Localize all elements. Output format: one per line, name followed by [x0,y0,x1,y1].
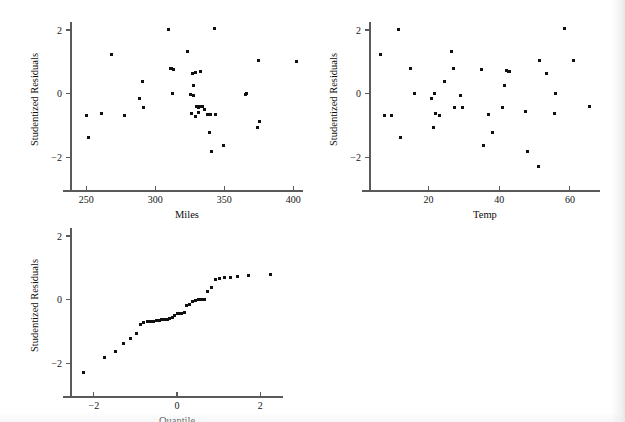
x-tick-label: 2 [258,400,263,411]
data-point [480,68,483,71]
data-point [399,136,402,139]
data-point [192,84,195,87]
data-point [194,71,197,74]
data-point [430,97,433,100]
data-point [201,105,204,108]
data-point [190,112,193,115]
data-point [443,80,446,83]
data-point [379,53,382,56]
data-point [139,323,142,326]
data-point [487,113,490,116]
data-point [257,59,260,62]
data-point-group [82,273,272,374]
x-tick-label: 0 [175,400,180,411]
data-point [545,72,548,75]
data-point [122,342,125,345]
data-point [142,321,145,324]
x-axis-title: Temp [473,209,497,220]
data-point [503,84,506,87]
data-point [588,105,591,108]
data-point [258,120,261,123]
x-tick-label: 40 [494,194,504,205]
scatter-plot-residuals-vs-temp: −202204060TempStudentized Residuals [320,0,625,210]
data-point [142,106,145,109]
data-point [210,150,213,153]
data-point [191,300,194,303]
data-point [191,72,194,75]
y-tick-label: 0 [356,88,361,99]
data-point-group [379,27,591,168]
data-point [383,114,386,117]
data-point [538,59,541,62]
data-point [152,320,155,323]
scatter-plot-normal-qq: −202−202QuantileStudentized Residuals [0,210,320,422]
x-axis-title: Quantile [159,415,195,422]
data-point [198,105,201,108]
data-point [438,114,441,117]
data-point [572,59,575,62]
data-point [269,273,272,276]
data-point [210,286,213,289]
data-point [491,131,494,134]
x-tick-label: 350 [217,194,232,205]
data-point [397,28,400,31]
figure-panel-grid: −202250300350400MilesStudentized Residua… [0,0,625,422]
data-point [459,94,462,97]
data-point [192,94,195,97]
data-point [138,97,141,100]
x-tick-label: 300 [148,194,163,205]
y-tick-label: −2 [350,152,361,163]
y-tick-label: −2 [51,152,62,163]
y-tick-label: 0 [57,294,62,305]
data-point [409,67,412,70]
data-point [199,70,202,73]
data-point [390,114,393,117]
data-point [123,114,126,117]
data-point [508,70,511,73]
data-point-group [85,27,297,153]
y-tick-label: 2 [57,231,62,242]
x-tick-label: 60 [565,194,575,205]
x-tick-label: 250 [79,194,94,205]
data-point [223,276,226,279]
data-point [206,290,209,293]
y-tick-label: 0 [57,88,62,99]
data-point [524,110,527,113]
data-point [197,298,200,301]
data-point [160,318,163,321]
data-point [236,275,239,278]
data-point [434,112,437,115]
data-point [537,165,540,168]
residuals-vs-temp-canvas: −202204060TempStudentized Residuals [320,0,625,210]
data-point [209,113,212,116]
data-point [256,126,259,129]
data-point [206,113,209,116]
data-point [453,106,456,109]
data-point [432,126,435,129]
data-point [553,112,556,115]
data-point [189,93,192,96]
data-point [554,92,557,95]
data-point [203,298,206,301]
normal-qq-plot-canvas: −202−202QuantileStudentized Residuals [0,210,320,422]
data-point [185,304,188,307]
data-point [114,350,117,353]
data-point [149,320,152,323]
data-point [200,298,203,301]
data-point [146,320,149,323]
y-tick-label: −2 [51,358,62,369]
data-point [214,278,217,281]
y-tick-label: 2 [356,25,361,36]
data-point [85,114,88,117]
data-point [100,112,103,115]
data-point [214,113,217,116]
data-point [203,108,206,111]
data-point [295,60,298,63]
data-point [110,53,113,56]
data-point [208,131,211,134]
residuals-vs-miles-canvas: −202250300350400MilesStudentized Residua… [0,0,320,210]
x-tick-label: −2 [89,400,100,411]
data-point [194,115,197,118]
data-point [87,136,90,139]
data-point [433,92,436,95]
